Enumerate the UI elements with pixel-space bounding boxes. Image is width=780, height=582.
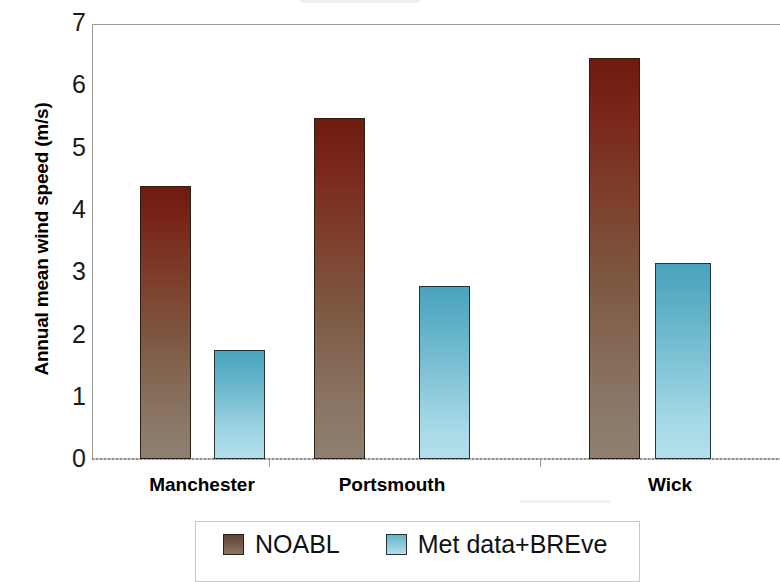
legend-items: NOABL Met data+BREve xyxy=(196,522,639,581)
bar-chart: Annual mean wind speed (m/s) 7 6 5 4 3 2… xyxy=(0,0,780,582)
legend-label-noabl: NOABL xyxy=(255,532,340,557)
x-axis-tick xyxy=(269,459,270,467)
x-tick-label-portsmouth: Portsmouth xyxy=(307,474,477,496)
bar-met-wick xyxy=(655,263,711,459)
legend-item-noabl: NOABL xyxy=(223,532,340,557)
legend-label-met-data-breve: Met data+BREve xyxy=(418,532,608,557)
legend-item-met-data-breve: Met data+BREve xyxy=(386,532,608,557)
x-tick-label-manchester: Manchester xyxy=(117,474,287,496)
bar-noabl-wick xyxy=(589,58,640,459)
bar-noabl-portsmouth xyxy=(314,118,365,459)
bar-noabl-manchester xyxy=(140,186,191,459)
bar-met-manchester xyxy=(214,350,265,459)
legend-swatch-icon-noabl xyxy=(223,534,244,555)
bar-met-portsmouth xyxy=(419,286,470,459)
chart-legend: NOABL Met data+BREve xyxy=(195,521,640,582)
legend-swatch-icon-met-data-breve xyxy=(386,534,407,555)
x-axis-tick xyxy=(540,459,541,467)
scan-artifact xyxy=(520,500,610,503)
x-tick-label-wick: Wick xyxy=(585,474,755,496)
bars-layer xyxy=(0,0,780,459)
